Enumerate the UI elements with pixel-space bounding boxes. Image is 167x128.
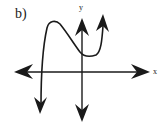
graph bbox=[0, 0, 167, 128]
y-axis bbox=[75, 18, 89, 122]
function-curve bbox=[34, 14, 109, 114]
